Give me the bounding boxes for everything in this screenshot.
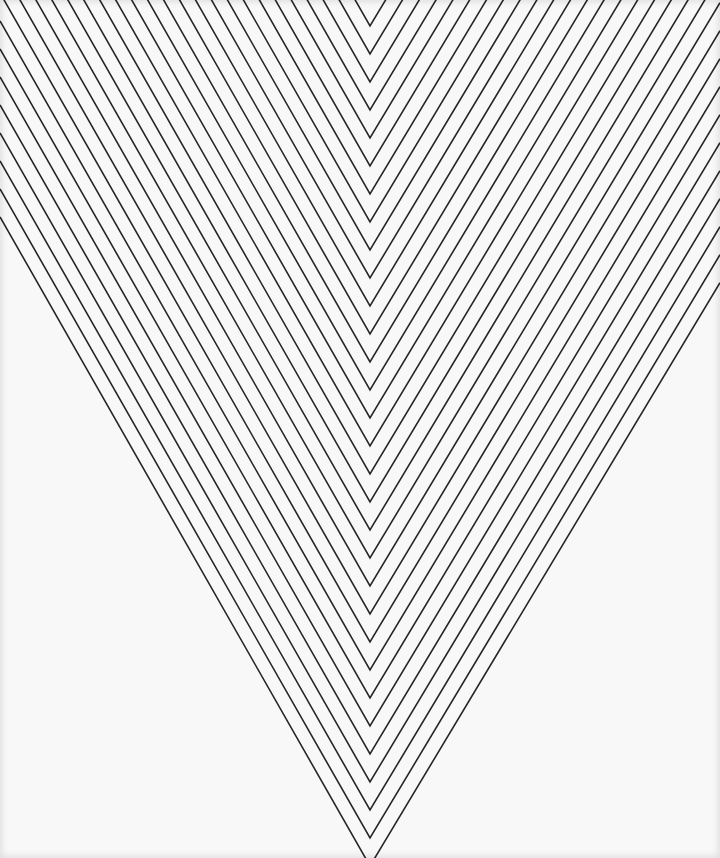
chevron-line <box>0 0 720 222</box>
chevron-line <box>0 0 720 390</box>
chevron-line <box>0 0 720 558</box>
chevron-line <box>0 0 720 110</box>
chevron-pattern-canvas <box>0 0 720 858</box>
chevron-line <box>0 0 720 334</box>
chevron-line <box>0 217 720 858</box>
chevron-lines <box>0 0 720 858</box>
chevron-line <box>0 0 720 166</box>
chevron-line <box>0 0 720 502</box>
